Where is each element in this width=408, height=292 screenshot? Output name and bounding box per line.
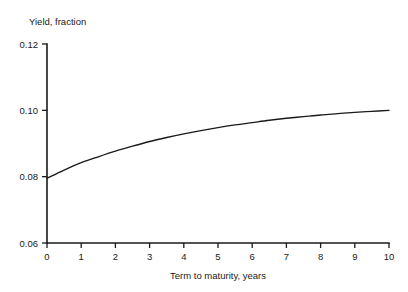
- x-tick-label: 4: [181, 251, 186, 262]
- y-tick-label: 0.08: [20, 171, 39, 182]
- x-tick-label: 10: [384, 251, 395, 262]
- x-tick-group: 012345678910: [44, 243, 394, 262]
- y-tick-label: 0.10: [20, 105, 39, 116]
- chart-canvas: Yield, fraction 0.060.080.100.12 0123456…: [0, 0, 408, 292]
- x-tick-label: 9: [352, 251, 357, 262]
- y-axis-title: Yield, fraction: [29, 16, 86, 27]
- x-tick-label: 3: [147, 251, 152, 262]
- x-tick-label: 7: [284, 251, 289, 262]
- yield-curve-figure: Yield, fraction 0.060.080.100.12 0123456…: [0, 0, 408, 292]
- x-tick-label: 6: [250, 251, 255, 262]
- x-tick-label: 1: [79, 251, 84, 262]
- x-tick-label: 8: [318, 251, 323, 262]
- x-tick-label: 0: [44, 251, 49, 262]
- y-tick-group: 0.060.080.100.12: [20, 39, 48, 249]
- x-axis-title: Term to maturity, years: [170, 270, 266, 281]
- x-tick-label: 2: [113, 251, 118, 262]
- y-tick-label: 0.12: [20, 39, 39, 50]
- x-tick-label: 5: [215, 251, 220, 262]
- y-tick-label: 0.06: [20, 238, 39, 249]
- yield-curve-line: [47, 110, 389, 178]
